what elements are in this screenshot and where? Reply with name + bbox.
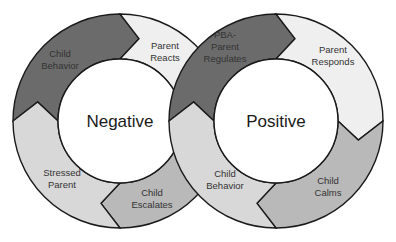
segment-label: ParentReacts xyxy=(150,40,180,63)
cycle-diagram: ChildBehaviorParentReactsChildEscalatesS… xyxy=(0,0,396,242)
segment-label: StressedParent xyxy=(43,167,81,190)
positive-cycle: PBA-ParentRegulatesParentRespondsChildCa… xyxy=(169,14,383,228)
segment-label: ChildCalms xyxy=(315,175,342,198)
positive-cycle-title: Positive xyxy=(246,112,306,131)
negative-cycle-title: Negative xyxy=(86,112,153,131)
